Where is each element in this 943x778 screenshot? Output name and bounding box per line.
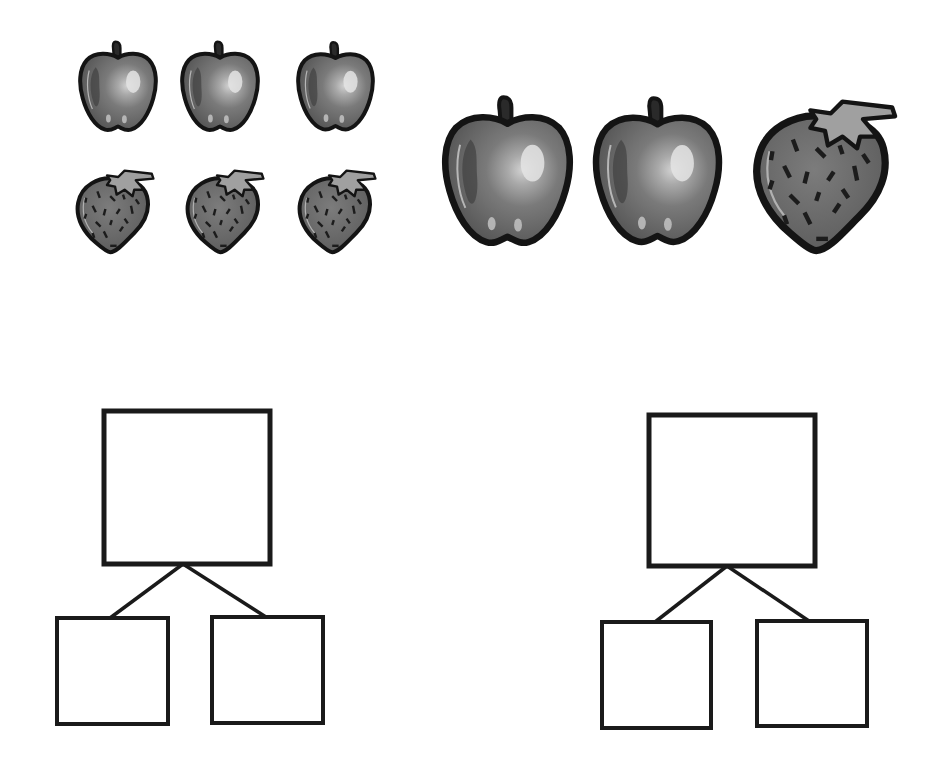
apple-icon [592, 93, 723, 249]
whole-box[interactable] [104, 411, 270, 564]
strawberry-icon [752, 97, 898, 261]
worksheet-title: Part-whole number bond worksheet [0, 0, 1, 1]
connector-line-right [183, 564, 266, 617]
apple-icon [78, 38, 158, 135]
apple-icon [296, 38, 375, 135]
strawberry-icon [185, 165, 265, 261]
connector-line-right [727, 566, 809, 621]
part-box-left[interactable] [57, 618, 168, 724]
part-box-left[interactable] [602, 622, 711, 728]
connector-line-left [110, 564, 183, 618]
right-bond [602, 415, 867, 728]
apple-icon [441, 92, 574, 250]
strawberry-icon [75, 165, 155, 261]
strawberry-icon [297, 165, 377, 261]
whole-box[interactable] [649, 415, 815, 566]
apple-icon [180, 38, 260, 135]
part-box-right[interactable] [757, 621, 867, 726]
left-bond [57, 411, 323, 724]
part-box-right[interactable] [212, 617, 323, 723]
connector-line-left [655, 566, 727, 622]
